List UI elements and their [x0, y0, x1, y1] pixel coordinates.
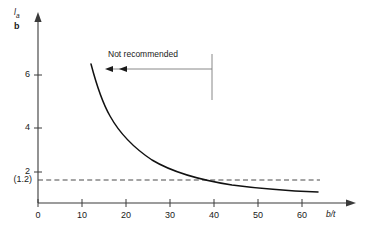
y-axis [34, 12, 41, 203]
chart-canvas [0, 0, 369, 239]
y-tick-label-4: 4 [10, 123, 30, 132]
y-tick-label-asymptote: (1.2) [0, 175, 32, 184]
x-tick-label-60: 60 [292, 211, 312, 220]
x-tick-label-40: 40 [204, 211, 224, 220]
y-tick-label-6: 6 [10, 70, 30, 79]
x-tick-label-30: 30 [160, 211, 180, 220]
y-axis-label-sub-a: a [16, 12, 20, 19]
x-axis [38, 199, 356, 206]
y-axis-label-denominator: b [14, 22, 20, 31]
x-axis-label: b/t [326, 210, 335, 219]
data-curve [91, 64, 318, 192]
chart-figure: la b 6 4 2 (1.2) 0 10 20 30 40 50 60 b/t… [0, 0, 369, 239]
x-tick-label-20: 20 [116, 211, 136, 220]
x-tick-label-0: 0 [28, 211, 48, 220]
annotation-not-recommended: Not recommended [108, 50, 178, 59]
x-tick-label-50: 50 [248, 211, 268, 220]
y-axis-label-numerator: la [14, 8, 20, 19]
x-tick-label-10: 10 [72, 211, 92, 220]
